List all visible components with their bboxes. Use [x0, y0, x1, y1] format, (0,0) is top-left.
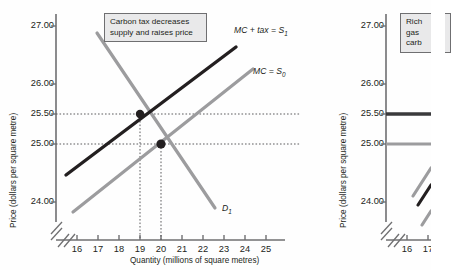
- left-chart-panel: Price (dollars per square metre) 27.00 2…: [0, 0, 300, 270]
- supply-curve-mc-tax-s1: [66, 47, 236, 175]
- demand-curve-d1: [97, 33, 215, 208]
- label-mc-s0-text: MC = S: [253, 66, 282, 76]
- equilibrium-dot-with-tax: [136, 110, 144, 118]
- label-d1-sub: 1: [228, 208, 232, 215]
- right-chart-panel: Price (dollars per square metre) 27.00 2…: [330, 0, 431, 270]
- label-mc-s0-sub: 0: [282, 71, 286, 78]
- right-curve-lower-gray: [422, 211, 431, 225]
- equilibrium-dot-no-tax: [156, 139, 165, 148]
- label-d1: D1: [222, 203, 232, 215]
- label-mc-tax-s1-sub: 1: [284, 30, 288, 37]
- right-y-axis-break-icon: [381, 222, 392, 240]
- label-mc-s0: MC = S0: [253, 66, 285, 78]
- label-mc-tax-s1: MC + tax = S1: [234, 25, 288, 37]
- right-edge-crop-mask: [431, 0, 445, 270]
- label-mc-tax-s1-text: MC + tax = S: [234, 25, 284, 35]
- y-axis-break-icon: [51, 222, 62, 240]
- left-callout-box: Carbon tax decreases supply and raises p…: [104, 13, 207, 42]
